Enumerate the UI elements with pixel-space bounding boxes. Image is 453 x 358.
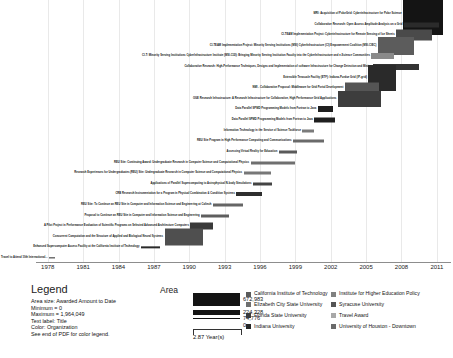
gantt-bar-label: REU Site: To Continue an REU Site in Com… (81, 203, 211, 206)
area-heading: Area (160, 285, 178, 295)
gantt-bar-label: A Pilot Project in Performance Evaluatio… (44, 225, 189, 228)
gantt-bar-label: Extensible Terascale Facility (ETF): Ind… (283, 76, 367, 79)
gantt-bar-label: REU Site: Continuing Award: Undergraduat… (114, 161, 249, 164)
x-axis-tick: 2002 (324, 264, 337, 270)
gantt-bar[interactable] (251, 161, 296, 164)
gantt-bar-label: CRB Research Instrumentation for a Progr… (115, 193, 235, 196)
color-swatch-icon (246, 302, 251, 307)
legend-organization-item[interactable]: University of Houston - Downtown (331, 324, 420, 330)
gantt-bar[interactable] (236, 192, 262, 196)
color-swatch-icon (246, 292, 251, 297)
color-swatch-icon (331, 302, 336, 307)
gantt-bar-label: Proposal to Continue an REU Site in Comp… (84, 214, 199, 217)
gantt-bar[interactable] (318, 106, 333, 112)
legend-line: Color: Organization (31, 324, 116, 331)
legend-organization-label: Indiana University (254, 324, 295, 330)
gantt-bar[interactable] (141, 247, 160, 248)
legend-organization-label: Florida State University (254, 313, 307, 319)
color-swatch-icon (331, 324, 336, 329)
gantt-bar-label: REU Site Program in High Performance Com… (197, 140, 291, 143)
gantt-bar[interactable] (404, 22, 439, 27)
legend-line: See end of PDF for color legend. (31, 331, 116, 338)
gantt-bar[interactable] (244, 172, 271, 175)
x-axis-tick: 1984 (112, 264, 125, 270)
legend-organization-item[interactable]: Elizabeth City State University (246, 302, 328, 308)
gantt-bar-label: Research Experiences for Undergraduates … (74, 172, 242, 175)
gantt-chart: MRI: Acquisition of PolarGrid: Cyberinfr… (0, 0, 453, 272)
color-swatch-icon (331, 313, 336, 318)
gantt-bar[interactable] (279, 150, 297, 153)
gantt-bar-label: Applications of Parallel Supercomputing … (150, 182, 251, 185)
x-axis-tick: 1993 (218, 264, 231, 270)
legend-organization-item[interactable]: Indiana University (246, 324, 328, 330)
legend-line: Text label: Title (31, 318, 116, 325)
legend-organization-label: University of Houston - Downtown (339, 324, 416, 330)
legend-organization-label: Elizabeth City State University (254, 302, 322, 308)
gantt-bar-label: CI-TEAM Implementation Project: Minority… (210, 44, 377, 47)
area-swatch-small (193, 318, 240, 319)
x-axis-tick: 2008 (395, 264, 408, 270)
organization-legend-right: Institute for Higher Education PolicySyr… (331, 291, 420, 335)
legend-organization-label: Institute for Higher Education Policy (339, 291, 420, 297)
chart-legend: Legend Area size: Awarded Amount to Date… (0, 283, 453, 358)
x-axis-tick: 1987 (147, 264, 160, 270)
gantt-bar-label: Collaborative Research: High-Performance… (184, 65, 371, 68)
x-axis-tick: 1978 (41, 264, 54, 270)
gantt-bar[interactable] (371, 53, 394, 59)
area-swatch-large (193, 293, 240, 306)
x-axis-tick: 1990 (183, 264, 196, 270)
gantt-bar-label: MRI: Acquisition of PolarGrid: Cyberinfr… (314, 12, 402, 15)
gantt-bar-label: Data Parallel SPMD Programming Models fr… (232, 118, 313, 121)
legend-organization-item[interactable]: Travel Award (331, 313, 420, 319)
gantt-bar-label: Travel to Attend 10th International... (1, 256, 47, 259)
gantt-bar[interactable] (302, 129, 314, 132)
gantt-bar[interactable] (378, 37, 415, 55)
gantt-bar-label: Data Parallel SPMD Programming Models fr… (235, 108, 316, 111)
x-axis: 1978198119841987199019931996199920022005… (0, 262, 453, 274)
gantt-bar-label: Collaborative Research: Open Access Ampl… (315, 23, 403, 26)
legend-line: Minimum = 0 (31, 305, 116, 312)
x-axis-tick: 2005 (359, 264, 372, 270)
gantt-bar[interactable] (314, 118, 335, 123)
gantt-bar-label: Concurrent Computation and the Structure… (53, 235, 163, 238)
color-swatch-icon (246, 324, 251, 329)
gantt-bar-label: Information Technology in the Service of… (224, 129, 301, 132)
legend-organization-item[interactable]: California Institute of Technology (246, 291, 328, 297)
gantt-bar-label: Enhanced Supercomputer Access Facility a… (33, 246, 139, 249)
gantt-bar[interactable] (201, 214, 229, 217)
legend-organization-item[interactable]: Syracuse University (331, 302, 420, 308)
gantt-bar-label: NMI - Collaborative Proposal: Middleware… (253, 87, 344, 90)
legend-organization-item[interactable]: Institute for Higher Education Policy (331, 291, 420, 297)
legend-line: Area size: Awarded Amount to Date (31, 298, 116, 305)
legend-line: Maximum = 1,964,049 (31, 311, 116, 318)
gantt-bar-label: OGE Research Infrastructure: A Research … (193, 97, 336, 100)
color-swatch-icon (246, 313, 251, 318)
legend-organization-label: Syracuse University (339, 302, 384, 308)
gantt-bar[interactable] (213, 203, 244, 206)
organization-legend-left: California Institute of TechnologyElizab… (246, 291, 328, 335)
color-swatch-icon (331, 292, 336, 297)
chart-bar-rows: MRI: Acquisition of PolarGrid: Cyberinfr… (0, 0, 453, 262)
year-scale-label: 2.87 Year(s) (193, 334, 224, 340)
gantt-bar[interactable] (338, 91, 382, 107)
gantt-bar-label: Assessing Virtual Reality for Education (226, 150, 277, 153)
x-axis-tick: 1999 (289, 264, 302, 270)
gantt-bar[interactable] (253, 182, 272, 185)
x-axis-tick: 1996 (253, 264, 266, 270)
gantt-bar[interactable] (293, 140, 324, 143)
x-axis-tick: 1981 (76, 264, 89, 270)
legend-organization-label: Travel Award (339, 313, 368, 319)
legend-heading: Legend (31, 283, 68, 295)
legend-description: Area size: Awarded Amount to DateMinimum… (31, 298, 116, 338)
x-axis-tick: 2011 (430, 264, 443, 270)
legend-organization-label: California Institute of Technology (254, 291, 328, 297)
area-swatch-medium (193, 310, 240, 315)
gantt-bar[interactable] (165, 228, 204, 245)
gantt-bar-label: CI-T: Minority Serving Institutions Cybe… (142, 55, 370, 58)
legend-organization-item[interactable]: Florida State University (246, 313, 328, 319)
axis-line (36, 262, 451, 263)
gantt-bar[interactable] (49, 257, 55, 258)
